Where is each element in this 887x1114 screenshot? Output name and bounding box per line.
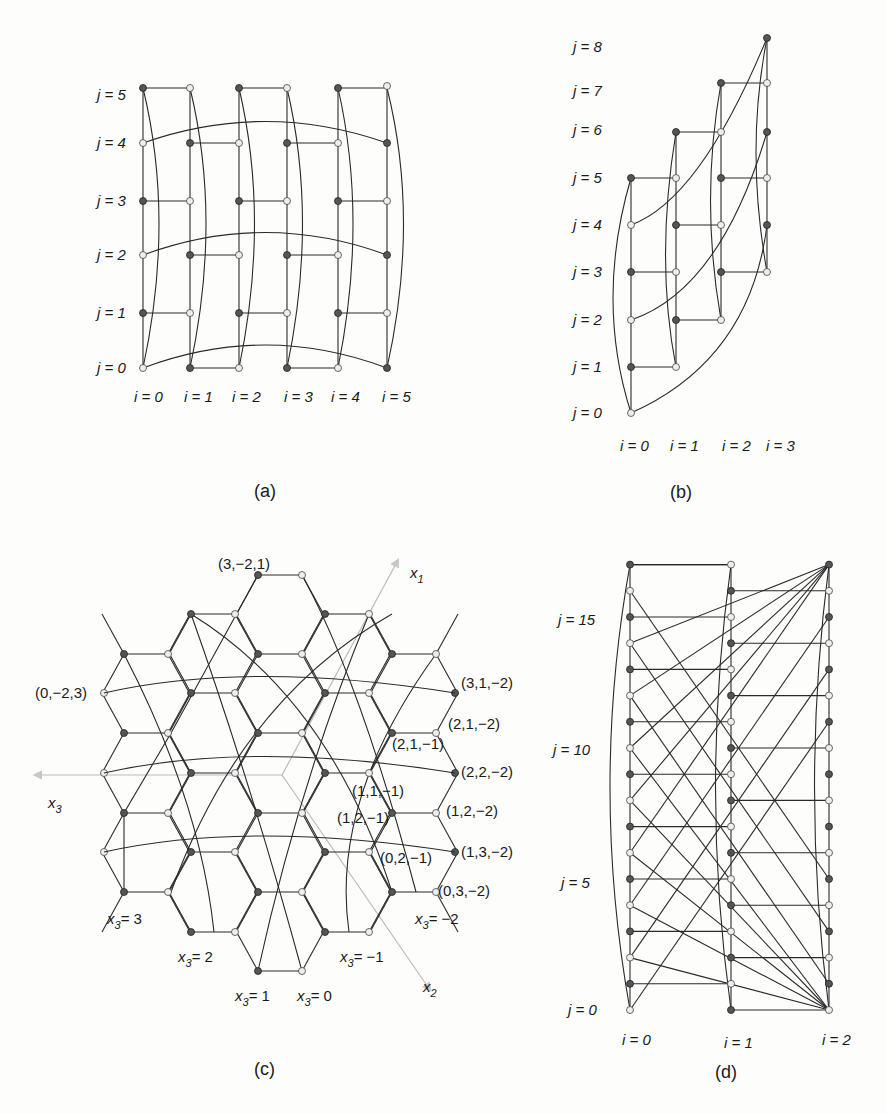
panel-c-x3-value-labels: x3= 3 x3= 2 x3= 1 x3= 0 x3= −1 x3= −2 [106,910,459,1008]
panel-c: (3,−2,1) (0,−2,3) (3,1,−2) (2,1,−2) (2,1… [35,555,513,1079]
x3-eq-3-label: x3= 3 [106,910,142,931]
d-i1-label: i = 1 [724,1034,753,1051]
b-j0-label: j = 0 [571,404,602,421]
panel-c-hex-lattice [101,572,459,975]
a-j3-label: j = 3 [95,192,126,209]
a-i4-label: i = 4 [331,388,360,405]
x3-eq-m1-label: x3= −1 [339,948,384,969]
c-coord-3-1-m2: (3,1,−2) [461,674,513,691]
a-j4-label: j = 4 [95,134,126,151]
x3-eq-m2-label: x3= −2 [414,910,459,931]
b-i1-label: i = 1 [670,437,699,454]
panel-a-edges [143,88,404,368]
caption-c: (c) [254,1059,275,1079]
panel-b: j = 0 j = 1 j = 2 j = 3 j = 4 j = 5 j = … [571,35,795,503]
figure-canvas: j = 0 j = 1 j = 2 j = 3 j = 4 j = 5 i = … [0,0,887,1114]
b-i0-label: i = 0 [620,437,649,454]
a-j0-label: j = 0 [95,359,126,376]
x3-axis-label: x3 [47,794,63,815]
a-i3-label: i = 3 [284,388,313,405]
d-j0-label: j = 0 [566,1001,597,1018]
panel-d-lattice [610,561,833,1013]
panel-c-coord-labels: (3,−2,1) (0,−2,3) (3,1,−2) (2,1,−2) (2,1… [35,555,513,899]
a-i0-label: i = 0 [134,388,163,405]
caption-b: (b) [670,482,692,502]
c-coord-0-m2-3: (0,−2,3) [35,684,87,701]
c-coord-2-2-m2: (2,2,−2) [461,763,513,780]
b-j8-label: j = 8 [571,38,602,55]
x1-axis-label: x1 [409,564,424,585]
a-i5-label: i = 5 [382,388,411,405]
x3-eq-1-label: x3= 1 [234,987,270,1008]
c-coord-2-1-m2: (2,1,−2) [448,715,500,732]
b-j6-label: j = 6 [571,121,602,138]
c-coord-0-2-m1: (0,2,−1) [380,849,432,866]
b-j7-label: j = 7 [571,82,602,99]
a-i1-label: i = 1 [184,388,213,405]
b-j3-label: j = 3 [571,263,602,280]
c-coord-0-3-m2: (0,3,−2) [438,882,490,899]
panel-d-i-labels: i = 0 i = 1 i = 2 [622,1031,851,1051]
panel-a-j-labels: j = 0 j = 1 j = 2 j = 3 j = 4 j = 5 [95,86,126,376]
c-coord-3-m2-1: (3,−2,1) [218,555,270,572]
a-j1-label: j = 1 [95,304,126,321]
panel-a-i-labels: i = 0 i = 1 i = 2 i = 3 i = 4 i = 5 [134,388,411,405]
panel-b-i-labels: i = 0 i = 1 i = 2 i = 3 [620,437,795,454]
c-coord-1-2-m2: (1,2,−2) [446,802,498,819]
c-coord-1-3-m2: (1,3,−2) [461,843,513,860]
caption-d: (d) [715,1062,737,1082]
a-j2-label: j = 2 [95,246,126,263]
b-i3-label: i = 3 [766,437,795,454]
d-j5-label: j = 5 [559,874,590,891]
b-j4-label: j = 4 [571,216,602,233]
panel-a: j = 0 j = 1 j = 2 j = 3 j = 4 j = 5 i = … [95,83,411,502]
a-i2-label: i = 2 [232,388,261,405]
c-coord-2-1-m1: (2,1,−1) [392,735,444,752]
panel-b-j-labels: j = 0 j = 1 j = 2 j = 3 j = 4 j = 5 j = … [571,38,602,421]
x3-eq-0-label: x3= 0 [296,987,332,1008]
b-j2-label: j = 2 [571,311,602,328]
b-i2-label: i = 2 [722,437,751,454]
panel-b-edges [613,38,767,413]
x2-axis-label: x2 [422,978,437,999]
d-i2-label: i = 2 [822,1031,851,1048]
panel-d-j-labels: j = 0 j = 5 j = 10 j = 15 [551,611,597,1018]
a-j5-label: j = 5 [95,86,126,103]
b-j5-label: j = 5 [571,169,602,186]
caption-a: (a) [254,481,276,501]
d-i0-label: i = 0 [622,1031,651,1048]
d-j10-label: j = 10 [551,741,591,758]
d-j15-label: j = 15 [556,611,596,628]
b-j1-label: j = 1 [571,358,602,375]
c-coord-1-2-m1: (1,2,−1) [337,809,389,826]
x3-eq-2-label: x3= 2 [177,948,213,969]
panel-c-long-arcs [104,677,455,853]
c-coord-1-1-m1: (1,1,−1) [352,782,404,799]
panel-d: j = 0 j = 5 j = 10 j = 15 i = 0 i = 1 i … [551,561,851,1082]
